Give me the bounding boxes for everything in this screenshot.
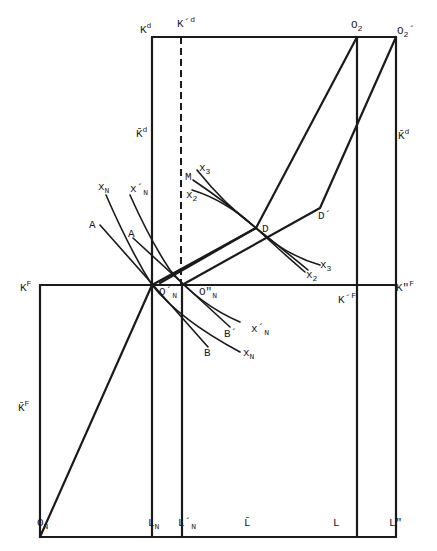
label-xn-prime: x´N [130, 184, 148, 197]
label-ln-prime: L´N [178, 518, 196, 531]
label-d: D [262, 224, 269, 235]
label-x3: x3 [199, 163, 210, 176]
label-x2-right: x2 [306, 270, 317, 283]
label-on: ON [37, 518, 48, 531]
label-k-dprime-f: K"F [396, 280, 414, 294]
label-on-dprime: O"N [199, 287, 217, 300]
label-l-bar: L̄ [244, 518, 251, 529]
label-x3-right: x3 [320, 260, 331, 273]
label-l-dprime: L" [389, 518, 402, 529]
label-x2: x2 [186, 190, 197, 203]
diagram-canvas [0, 0, 437, 551]
label-xn-prime-low: x´N [251, 324, 269, 337]
label-a: A [89, 220, 96, 231]
label-k-prime-d: K´d [177, 16, 195, 30]
label-xn: xN [98, 182, 109, 195]
label-xn-low: xN [243, 348, 254, 361]
label-on-prime: O´N [159, 287, 177, 300]
label-b: B [204, 348, 211, 359]
label-kbar-f: K̄F [18, 400, 29, 414]
label-kf: KF [20, 280, 31, 294]
label-ln: LN [148, 518, 159, 531]
path-on-dprime-o2prime [152, 37, 396, 285]
label-kbar-d-right: K̄d [398, 128, 409, 142]
label-o2: O2 [351, 20, 362, 33]
label-l: L [333, 518, 340, 529]
label-d-prime: D´ [318, 211, 331, 222]
label-kd: Kd [140, 22, 151, 36]
label-b-prime: B´ [224, 329, 237, 340]
label-a2: A [128, 229, 135, 240]
label-k-prime-f: K´F [338, 292, 356, 306]
label-m: M [185, 172, 192, 183]
label-o2-prime: O2´ [397, 26, 415, 39]
label-kbar-d-left: K̄d [136, 126, 147, 140]
curve-xn-prime [130, 195, 240, 322]
